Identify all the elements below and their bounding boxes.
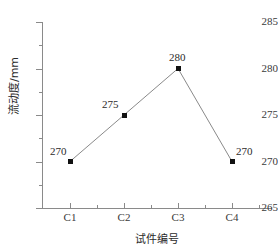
- data-point-marker: [122, 113, 127, 118]
- plot-area: 270275280270: [0, 0, 278, 250]
- data-point-label: 270: [50, 146, 67, 157]
- data-point-marker: [230, 159, 235, 164]
- chart-figure: 265270275280285 C1C2C3C4 流动度/mm 试件编号 270…: [0, 0, 278, 250]
- data-point-label: 280: [169, 52, 186, 63]
- data-point-marker: [176, 66, 181, 71]
- data-point-label: 275: [102, 99, 119, 110]
- data-point-marker: [68, 159, 73, 164]
- data-point-label: 270: [236, 146, 253, 157]
- series-line: [0, 0, 278, 250]
